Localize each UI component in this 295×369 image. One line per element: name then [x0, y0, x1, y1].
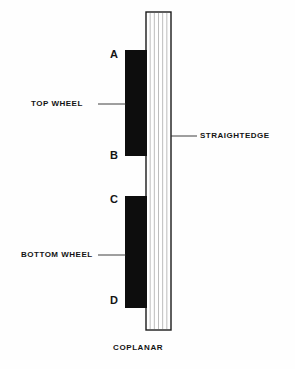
- point-label-b: B: [110, 150, 118, 161]
- point-label-c: C: [110, 194, 118, 205]
- figure-caption: COPLANAR: [113, 344, 163, 352]
- straightedge-label: STRAIGHTEDGE: [200, 132, 270, 140]
- point-label-d: D: [110, 295, 118, 306]
- straightedge-shape: [146, 12, 171, 330]
- diagram-canvas: [0, 0, 295, 369]
- coplanar-wheel-alignment-diagram: TOP WHEEL BOTTOM WHEEL STRAIGHTEDGE COPL…: [0, 0, 295, 369]
- top-wheel-label: TOP WHEEL: [31, 100, 83, 108]
- diagram-vector-layer: [0, 0, 295, 369]
- top-wheel-body: [125, 50, 147, 156]
- bottom-wheel-body: [125, 196, 147, 308]
- point-label-a: A: [110, 49, 118, 60]
- bottom-wheel-label: BOTTOM WHEEL: [21, 251, 93, 259]
